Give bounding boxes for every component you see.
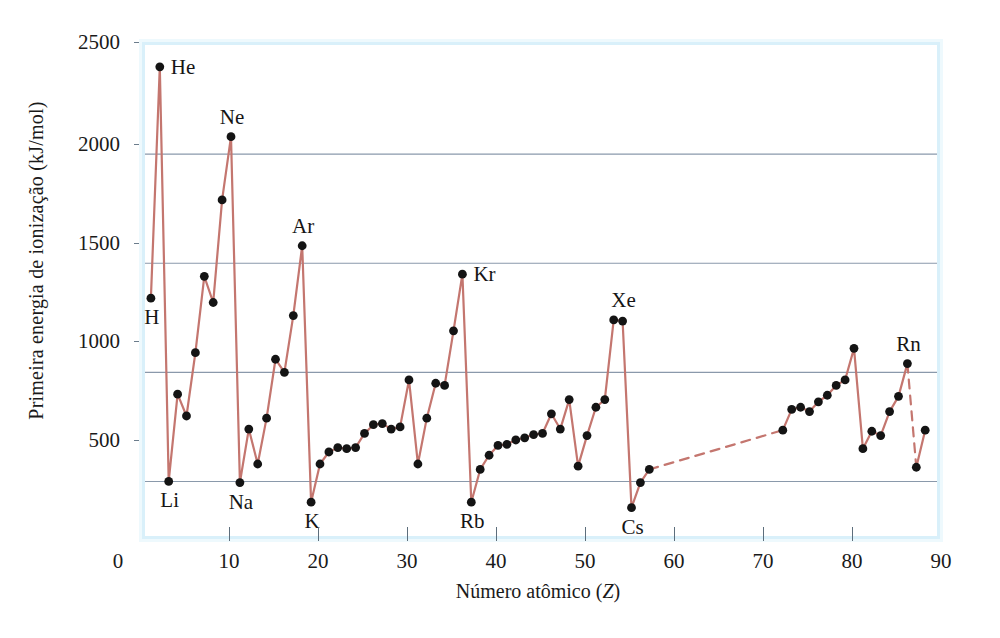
y-tick-mark-2500 [134, 42, 142, 43]
data-point-z17 [289, 311, 298, 320]
data-line-solid [783, 348, 908, 448]
data-point-z37 [467, 498, 476, 507]
data-point-z20 [316, 460, 325, 469]
x-axis-label: Número atômico (Z) [456, 580, 620, 603]
data-point-z55 [627, 503, 636, 512]
data-point-z43 [520, 433, 529, 442]
point-label-Ar: Ar [292, 214, 314, 238]
data-point-z46 [547, 409, 556, 418]
ionization-energy-figure: Primeira energia de ionização (kJ/mol) 2… [0, 0, 1000, 638]
data-point-z52 [600, 395, 609, 404]
data-line-dashed-57-72 [649, 430, 783, 469]
data-point-z25 [360, 429, 369, 438]
data-point-z29 [396, 422, 405, 431]
data-point-z34 [440, 381, 449, 390]
data-point-z49 [574, 462, 583, 471]
x-tick-mark-80 [852, 527, 853, 541]
data-point-z27 [378, 419, 387, 428]
x-tick-label-40: 40 [486, 549, 507, 574]
x-tick-mark-50 [585, 527, 586, 541]
data-point-z32 [422, 414, 431, 423]
data-point-z24 [351, 443, 360, 452]
data-point-z33 [431, 379, 440, 388]
data-point-z35 [449, 326, 458, 335]
point-label-Ne: Ne [220, 105, 245, 129]
data-point-z18 [298, 241, 307, 250]
x-tick-label-60: 60 [664, 549, 685, 574]
data-point-z21 [325, 448, 334, 457]
data-point-z50 [583, 431, 592, 440]
data-point-z4 [173, 390, 182, 399]
data-point-z44 [529, 430, 538, 439]
point-label-He: He [171, 55, 196, 79]
x-tick-label-80: 80 [842, 549, 863, 574]
data-point-z78 [832, 381, 841, 390]
data-point-z28 [387, 425, 396, 434]
point-label-Li: Li [160, 488, 179, 512]
data-point-z41 [503, 440, 512, 449]
data-point-z72 [778, 426, 787, 435]
data-point-z40 [494, 441, 503, 450]
y-tick-mark-2000 [134, 144, 142, 145]
data-point-z84 [885, 407, 894, 416]
data-point-z13 [253, 460, 262, 469]
x-tick-mark-20 [318, 527, 319, 541]
data-point-z3 [164, 477, 173, 486]
data-point-z57 [645, 465, 654, 474]
data-point-z81 [859, 444, 868, 453]
y-tick-label-1000: 1000 [42, 329, 120, 354]
x-tick-label-30: 30 [397, 549, 418, 574]
plot-inner: HHeLiNeNaArKKrRbXeCsRn [145, 45, 937, 536]
data-point-z19 [307, 498, 316, 507]
point-label-Rn: Rn [896, 332, 921, 356]
point-label-Cs: Cs [621, 515, 643, 539]
y-axis-label: Primeira energia de ionização (kJ/mol) [25, 0, 48, 581]
data-point-z15 [271, 355, 280, 364]
x-tick-label-50: 50 [575, 549, 596, 574]
data-point-z42 [511, 436, 520, 445]
data-point-z12 [244, 425, 253, 434]
point-label-Rb: Rb [460, 509, 485, 533]
data-points [147, 62, 930, 512]
x-tick-label-20: 20 [308, 549, 329, 574]
x-axis-label-prefix: Número atômico ( [456, 580, 603, 602]
data-point-z2 [155, 62, 164, 71]
data-point-z8 [209, 298, 218, 307]
data-point-z76 [814, 397, 823, 406]
data-point-z6 [191, 348, 200, 357]
data-point-z53 [609, 316, 618, 325]
x-tick-mark-60 [674, 527, 675, 541]
y-tick-mark-1000 [134, 341, 142, 342]
data-point-z82 [867, 427, 876, 436]
point-label-Na: Na [229, 490, 254, 514]
x-tick-mark-10 [229, 527, 230, 541]
data-point-z36 [458, 270, 467, 279]
y-tick-label-2500: 2500 [42, 30, 120, 55]
data-point-z16 [280, 368, 289, 377]
x-axis-label-suffix: ) [614, 580, 621, 602]
y-tick-label-1500: 1500 [42, 231, 120, 256]
data-point-z56 [636, 478, 645, 487]
data-point-z47 [556, 425, 565, 434]
data-point-z79 [841, 376, 850, 385]
y-tick-mark-500 [134, 440, 142, 441]
x-tick-label-90: 90 [931, 549, 952, 574]
data-point-z26 [369, 420, 378, 429]
x-tick-label-0: 0 [113, 549, 124, 574]
data-point-z85 [894, 392, 903, 401]
data-point-z45 [538, 429, 547, 438]
data-point-z31 [414, 460, 423, 469]
y-tick-mark-1500 [134, 243, 142, 244]
data-point-z30 [405, 376, 414, 385]
point-label-Xe: Xe [611, 288, 636, 312]
x-axis-label-symbol: Z [602, 580, 613, 602]
data-point-z88 [921, 426, 930, 435]
x-tick-mark-40 [496, 527, 497, 541]
data-point-z11 [236, 478, 245, 487]
data-line-solid [916, 430, 925, 467]
x-tick-label-70: 70 [753, 549, 774, 574]
y-tick-label-2000: 2000 [42, 132, 120, 157]
data-point-z23 [342, 444, 351, 453]
data-point-z74 [796, 403, 805, 412]
data-point-z14 [262, 414, 271, 423]
